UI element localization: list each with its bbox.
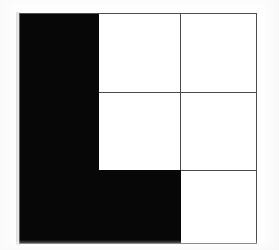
grid-cell-r1c1 (19, 13, 99, 92)
grid-cell-r3c2 (99, 170, 181, 244)
grid-cell-r1c2 (99, 13, 181, 92)
figure-canvas (0, 0, 279, 250)
grid-square (19, 13, 257, 244)
grid-cell-r1c3 (181, 13, 257, 92)
grid-cell-r3c1 (19, 170, 99, 244)
grid-cell-r3c3 (181, 170, 257, 244)
grid-cell-r2c2 (99, 92, 181, 170)
grid-cell-r2c1 (19, 92, 99, 170)
grid-cell-r2c3 (181, 92, 257, 170)
